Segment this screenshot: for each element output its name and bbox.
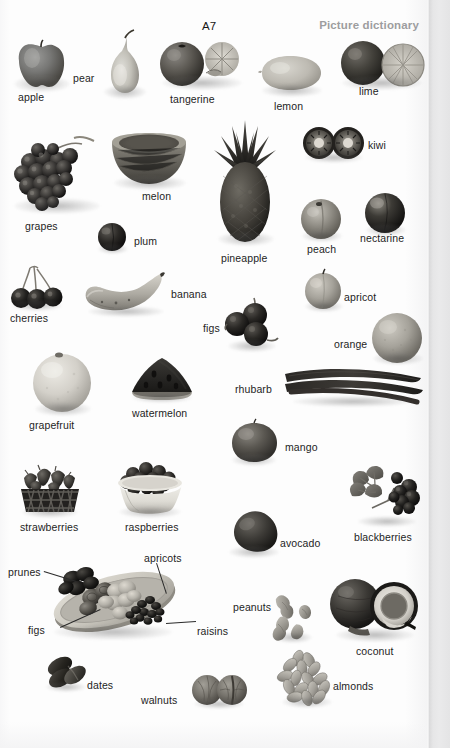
label-apricot: apricot: [344, 291, 376, 303]
label-strawberries: strawberries: [20, 521, 78, 533]
label-blackberries: blackberries: [354, 531, 412, 543]
grapes-image: [8, 132, 106, 214]
raspberries-image: [113, 460, 187, 518]
dried-fruit-platter-image: [44, 558, 184, 644]
dates-image: [44, 654, 90, 692]
label-nectarine: nectarine: [360, 232, 404, 244]
label-cherries: cherries: [10, 312, 48, 324]
peanuts-image: [272, 592, 316, 644]
lime-image: [340, 40, 426, 90]
label-pear: pear: [73, 72, 94, 84]
label-figs: figs: [203, 322, 220, 334]
pineapple-image: [208, 118, 282, 246]
cherries-image: [8, 266, 68, 312]
label-lime: lime: [359, 85, 379, 97]
mango-image: [230, 422, 280, 466]
label-raspberries: raspberries: [125, 521, 179, 533]
nectarine-image: [364, 192, 408, 236]
watermelon-image: [126, 356, 198, 404]
figs-image: [224, 296, 282, 352]
apricot-image: [303, 270, 345, 312]
label-avocado: avocado: [280, 537, 320, 549]
coconut-image: [330, 578, 420, 642]
label-figs-dried: figs: [28, 624, 45, 636]
rhubarb-image: [283, 364, 425, 408]
label-almonds: almonds: [333, 680, 373, 692]
strawberries-image: [18, 462, 82, 518]
label-pineapple: pineapple: [221, 252, 267, 264]
unit-code: A7: [202, 20, 216, 33]
label-dates: dates: [87, 679, 113, 691]
label-walnuts: walnuts: [141, 694, 177, 706]
label-orange: orange: [334, 338, 367, 350]
avocado-image: [225, 508, 283, 558]
blackberries-image: [348, 466, 424, 528]
grapefruit-image: [32, 352, 94, 416]
label-coconut: coconut: [356, 645, 393, 657]
walnuts-image: [192, 674, 248, 708]
label-melon: melon: [142, 190, 171, 202]
lemon-image: [258, 52, 326, 98]
apple-image: [10, 40, 72, 92]
label-apple: apple: [18, 91, 44, 103]
tangerine-image: [160, 40, 246, 90]
label-tangerine: tangerine: [170, 93, 215, 105]
label-raisins: raisins: [197, 625, 228, 637]
label-watermelon: watermelon: [132, 407, 187, 419]
label-mango: mango: [285, 441, 318, 453]
label-peanuts: peanuts: [233, 601, 271, 613]
label-kiwi: kiwi: [368, 139, 386, 151]
label-apricots: apricots: [144, 552, 182, 564]
label-rhubarb: rhubarb: [235, 383, 272, 395]
page-gutter-strip: [429, 0, 450, 748]
kiwi-image: [303, 126, 365, 162]
label-peach: peach: [307, 243, 336, 255]
label-grapes: grapes: [25, 220, 58, 232]
almonds-image: [276, 652, 338, 708]
picture-dictionary-page: A7 Picture dictionary apple pear: [0, 0, 450, 748]
orange-image: [371, 312, 425, 366]
label-grapefruit: grapefruit: [29, 419, 74, 431]
label-lemon: lemon: [274, 100, 303, 112]
page-bottom-fade: [0, 722, 429, 748]
label-banana: banana: [171, 288, 207, 300]
pear-image: [100, 35, 150, 97]
banana-image: [82, 272, 168, 318]
melon-image: [110, 132, 190, 190]
label-plum: plum: [134, 235, 157, 247]
peach-image: [300, 198, 344, 242]
label-prunes: prunes: [8, 566, 41, 578]
plum-image: [96, 222, 130, 254]
page-title: Picture dictionary: [319, 19, 419, 32]
